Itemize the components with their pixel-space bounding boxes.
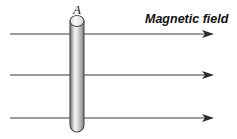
magnetic-field-label: Magnetic field xyxy=(145,12,229,26)
field-line-2 xyxy=(10,71,214,79)
magnetic-field-diagram: A Magnetic field xyxy=(0,0,237,139)
rod-top-cap xyxy=(70,16,84,27)
rod-body xyxy=(70,21,84,132)
field-line-3 xyxy=(10,114,214,122)
field-line-1 xyxy=(10,30,214,38)
conductor-label: A xyxy=(72,2,81,17)
conductor-rod xyxy=(70,16,84,133)
diagram-canvas: A Magnetic field xyxy=(0,0,237,139)
